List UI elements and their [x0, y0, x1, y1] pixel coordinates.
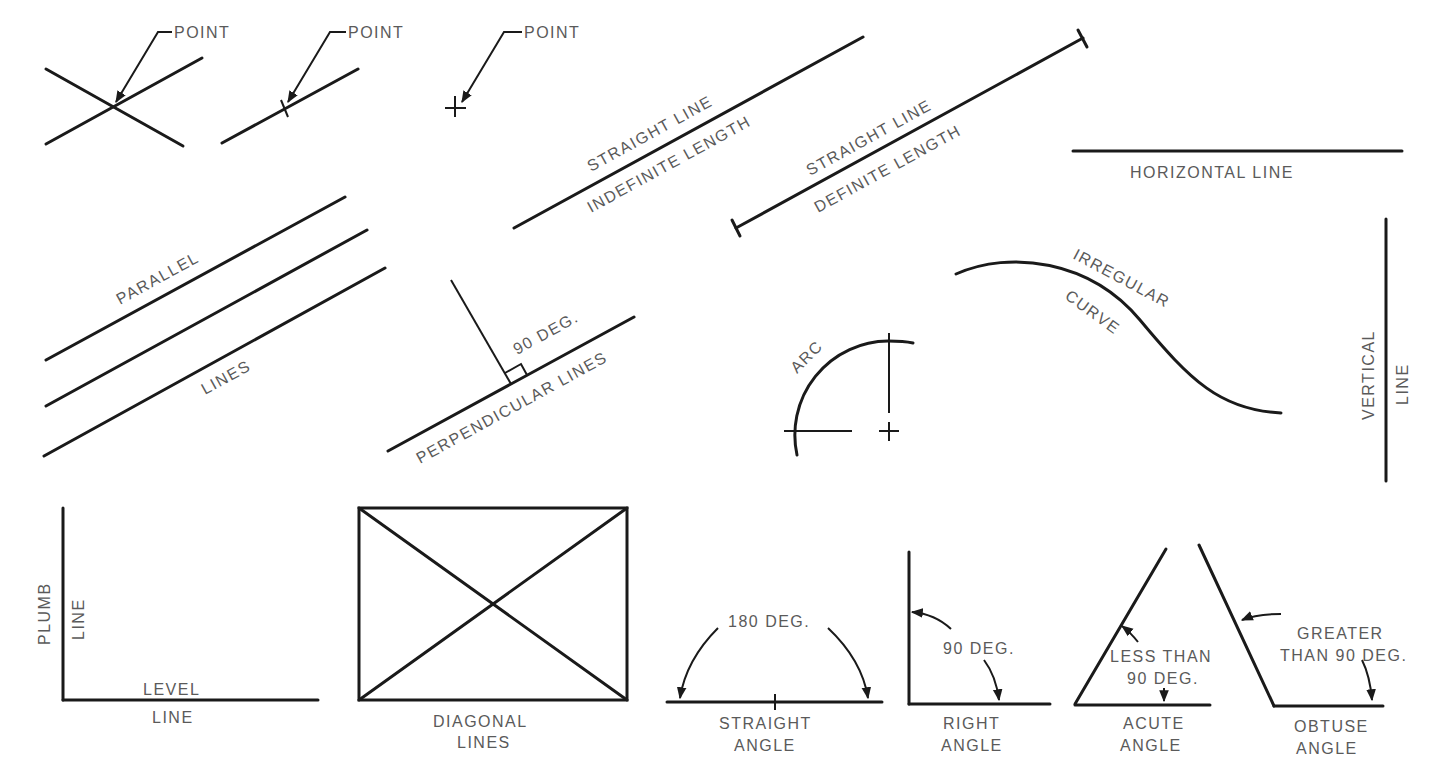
- obtuse-angle-figure: GREATER THAN 90 DEG. OBTUSE ANGLE: [1199, 545, 1407, 757]
- point-label-3: POINT: [524, 24, 580, 41]
- perpendicular-lines-figure: 90 DEG. PERPENDICULAR LINES: [388, 280, 634, 467]
- acute-angle-label-1: ACUTE: [1123, 715, 1185, 732]
- plumb-label-1: PLUMB: [36, 582, 53, 645]
- straight-angle-label-2: ANGLE: [734, 737, 796, 754]
- obtuse-angle-label-2: ANGLE: [1296, 740, 1358, 757]
- geometric-lines-diagram: POINT POINT POINT STRAIGHT LINE INDEFINI…: [0, 0, 1452, 781]
- point-on-line-figure: POINT: [222, 24, 404, 143]
- horizontal-line-figure: HORIZONTAL LINE: [1073, 151, 1402, 181]
- irregular-curve-figure: IRREGULAR CURVE: [956, 246, 1281, 413]
- diagonal-label-1: DIAGONAL: [433, 713, 528, 730]
- right-angle-degree-label: 90 DEG.: [943, 640, 1015, 657]
- acute-degree-label-1: LESS THAN: [1110, 648, 1212, 665]
- straight-line-definite-figure: STRAIGHT LINE DEFINITE LENGTH: [732, 30, 1087, 236]
- straight-angle-figure: 180 DEG. STRAIGHT ANGLE: [667, 613, 882, 754]
- plumb-label-2: LINE: [70, 598, 87, 640]
- obtuse-degree-label-2: THAN 90 DEG.: [1280, 647, 1407, 664]
- straight-line-indefinite-figure: STRAIGHT LINE INDEFINITE LENGTH: [514, 37, 863, 228]
- level-label-2: LINE: [152, 709, 194, 726]
- diagonal-lines-figure: DIAGONAL LINES: [359, 508, 627, 751]
- obtuse-degree-label-1: GREATER: [1297, 625, 1384, 642]
- diagonal-label-2: LINES: [457, 734, 511, 751]
- acute-angle-label-2: ANGLE: [1120, 737, 1182, 754]
- point-isolated-figure: POINT: [445, 24, 580, 117]
- horizontal-label: HORIZONTAL LINE: [1130, 164, 1294, 181]
- right-angle-label-2: ANGLE: [941, 737, 1003, 754]
- acute-degree-label-2: 90 DEG.: [1127, 670, 1199, 687]
- obtuse-angle-label-1: OBTUSE: [1294, 718, 1369, 735]
- parallel-label-2: LINES: [198, 357, 253, 398]
- straight-angle-label-1: STRAIGHT: [719, 715, 812, 732]
- vertical-label-2: LINE: [1394, 363, 1411, 405]
- vertical-line-figure: VERTICAL LINE: [1360, 219, 1411, 481]
- point-label-1: POINT: [174, 24, 230, 41]
- straight-angle-degree-label: 180 DEG.: [728, 613, 810, 630]
- acute-angle-figure: LESS THAN 90 DEG. ACUTE ANGLE: [1075, 549, 1212, 754]
- point-label-2: POINT: [348, 24, 404, 41]
- level-label-1: LEVEL: [143, 681, 200, 698]
- right-angle-figure: 90 DEG. RIGHT ANGLE: [909, 552, 1050, 754]
- parallel-lines-figure: PARALLEL LINES: [44, 197, 385, 456]
- point-intersection-figure: POINT: [46, 24, 230, 146]
- straight-def-label-1: STRAIGHT LINE: [803, 96, 934, 178]
- perpendicular-label: PERPENDICULAR LINES: [413, 348, 610, 466]
- straight-indef-label-1: STRAIGHT LINE: [584, 92, 715, 174]
- right-angle-label-1: RIGHT: [943, 715, 1000, 732]
- arc-figure: ARC: [784, 333, 913, 455]
- plumb-level-figure: PLUMB LINE LEVEL LINE: [36, 508, 318, 726]
- vertical-label-1: VERTICAL: [1360, 330, 1377, 420]
